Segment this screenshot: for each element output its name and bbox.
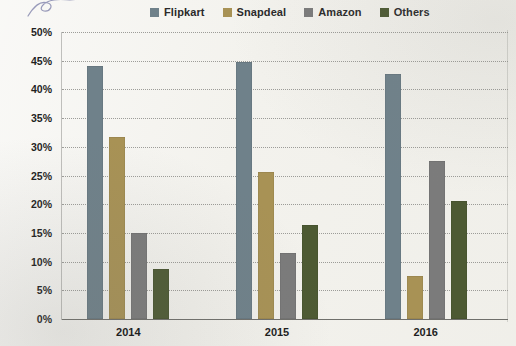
y-tick-label-50: 50%	[31, 26, 52, 38]
bar-amazon-2015	[280, 253, 296, 319]
gridline-30	[62, 147, 508, 148]
legend-label-amazon: Amazon	[318, 7, 361, 18]
x-axis-label-2015: 2015	[265, 326, 289, 338]
handwriting-scribble	[24, 0, 84, 20]
y-tick-label-45: 45%	[31, 55, 52, 67]
y-tick-label-0: 0%	[37, 313, 52, 325]
bar-snapdeal-2014	[109, 137, 125, 319]
y-tick-label-25: 25%	[31, 170, 52, 182]
bar-others-2014	[153, 269, 169, 320]
x-axis-label-2016: 2016	[413, 326, 437, 338]
legend-item-amazon: Amazon	[304, 7, 361, 18]
legend-label-flipkart: Flipkart	[164, 7, 205, 18]
legend-swatch-snapdeal	[223, 8, 232, 17]
legend-swatch-others	[380, 8, 389, 17]
gridline-35	[62, 118, 508, 119]
bar-snapdeal-2015	[258, 172, 274, 319]
legend-label-snapdeal: Snapdeal	[237, 7, 287, 18]
bar-snapdeal-2016	[407, 276, 423, 319]
plot-area	[62, 32, 508, 319]
gridline-50	[62, 32, 508, 33]
legend-item-flipkart: Flipkart	[150, 7, 205, 18]
y-tick-label-15: 15%	[31, 227, 52, 239]
legend-item-others: Others	[380, 7, 430, 18]
legend-swatch-amazon	[304, 8, 313, 17]
bar-others-2016	[451, 201, 467, 319]
bar-amazon-2014	[131, 233, 147, 319]
bar-others-2015	[302, 225, 318, 319]
bar-amazon-2016	[429, 161, 445, 319]
x-axis-line	[62, 319, 508, 320]
bar-flipkart-2014	[87, 66, 103, 319]
legend-swatch-flipkart	[150, 8, 159, 17]
gridline-45	[62, 61, 508, 62]
chart-legend: Flipkart Snapdeal Amazon Others	[150, 7, 430, 18]
y-tick-label-40: 40%	[31, 83, 52, 95]
y-axis-tick-labels: 0%5%10%15%20%25%30%35%40%45%50%	[0, 32, 58, 319]
bar-flipkart-2016	[385, 74, 401, 319]
legend-item-snapdeal: Snapdeal	[223, 7, 287, 18]
y-tick-label-35: 35%	[31, 112, 52, 124]
y-tick-label-20: 20%	[31, 198, 52, 210]
x-axis-label-2014: 2014	[116, 326, 140, 338]
y-tick-label-5: 5%	[37, 284, 52, 296]
legend-label-others: Others	[394, 7, 430, 18]
y-tick-label-30: 30%	[31, 141, 52, 153]
bar-flipkart-2015	[236, 62, 252, 319]
y-tick-label-10: 10%	[31, 256, 52, 268]
gridline-40	[62, 89, 508, 90]
